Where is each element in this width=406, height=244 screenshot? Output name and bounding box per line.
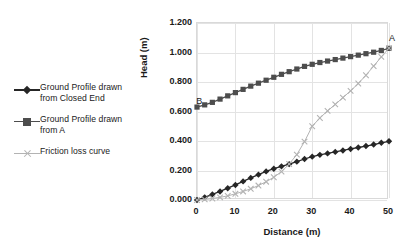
x-tick-label: 30 bbox=[296, 207, 326, 216]
x-axis-title: Distance (m) bbox=[196, 226, 388, 237]
x-tick-label: 50 bbox=[373, 207, 403, 216]
y-axis-title: Head (m) bbox=[138, 37, 149, 78]
chart-container: Ground Profile drawnfrom Closed EndGroun… bbox=[0, 0, 406, 244]
x-tick-label: 40 bbox=[335, 207, 365, 216]
x-tick-label: 0 bbox=[181, 207, 211, 216]
x-axis-ticks: 01020304050 bbox=[0, 0, 406, 244]
x-tick-label: 10 bbox=[219, 207, 249, 216]
x-tick-label: 20 bbox=[258, 207, 288, 216]
